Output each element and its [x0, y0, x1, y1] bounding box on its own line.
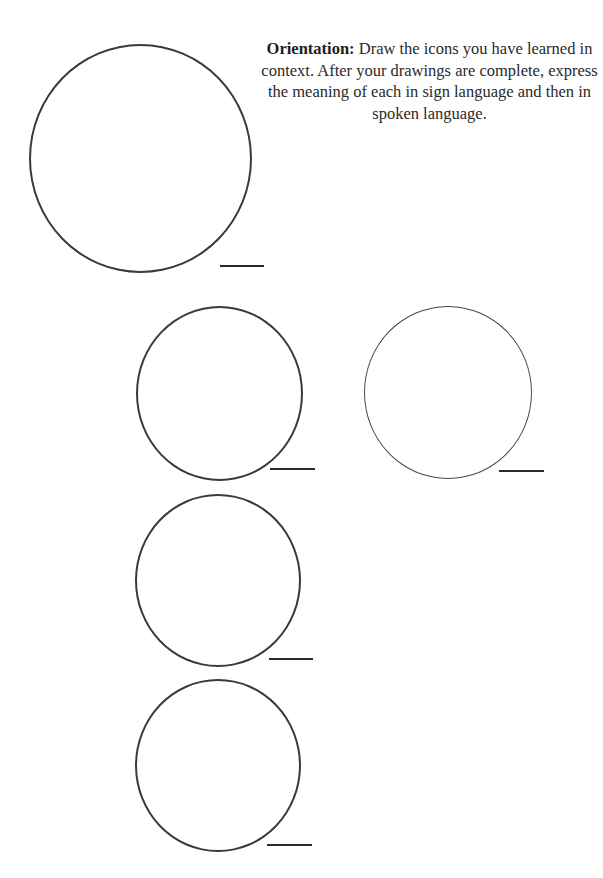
answer-blank-2[interactable]	[270, 468, 315, 470]
answer-blank-4[interactable]	[269, 658, 313, 660]
drawing-circle-5[interactable]	[135, 679, 301, 852]
drawing-circle-4[interactable]	[135, 494, 301, 667]
orientation-label: Orientation:	[267, 39, 355, 58]
drawing-circle-2[interactable]	[136, 306, 303, 481]
answer-blank-3[interactable]	[499, 470, 544, 472]
answer-blank-1[interactable]	[220, 265, 264, 267]
orientation-instructions: Orientation: Draw the icons you have lea…	[252, 38, 603, 124]
drawing-circle-1[interactable]	[29, 44, 252, 273]
drawing-circle-3[interactable]	[364, 306, 532, 479]
answer-blank-5[interactable]	[267, 844, 312, 846]
